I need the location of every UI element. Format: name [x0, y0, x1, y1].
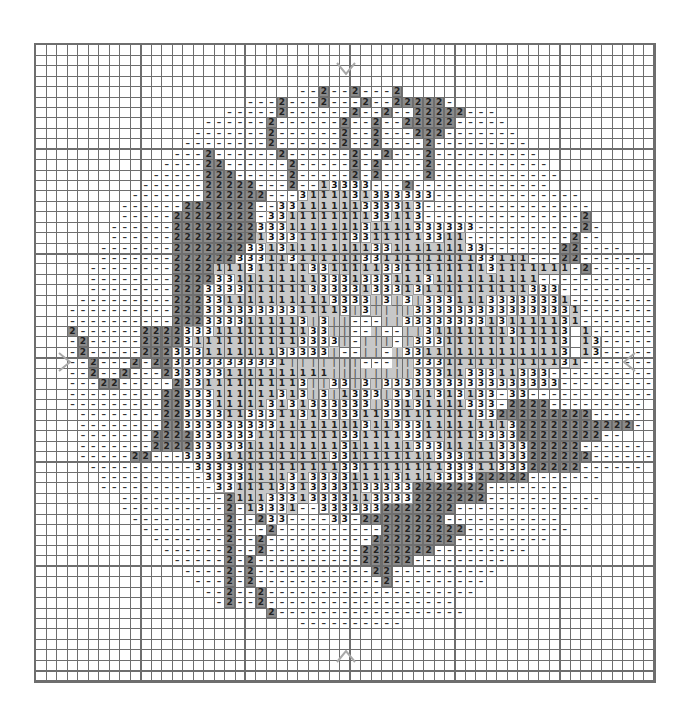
cell-symbol: 3	[371, 211, 381, 222]
cell-symbol: 1	[289, 463, 295, 472]
cell-symbol: –	[248, 160, 253, 169]
cell-symbol: –	[342, 98, 347, 107]
cell-symbol: –	[583, 400, 588, 409]
cell-symbol: –	[562, 504, 567, 513]
cell-symbol: –	[562, 525, 567, 534]
cell-symbol: 1	[394, 431, 400, 440]
cell-symbol: –	[290, 577, 295, 586]
cell-empty	[570, 108, 581, 119]
cell-empty	[591, 504, 602, 515]
cell-empty	[518, 566, 529, 577]
cell-empty	[99, 212, 110, 223]
cell-dash: –	[476, 160, 487, 171]
cell-empty	[560, 76, 571, 87]
cell-empty	[36, 587, 47, 598]
cell-symbol: –	[102, 431, 107, 440]
cell-empty	[57, 76, 68, 87]
cell-empty	[476, 608, 487, 619]
cell-dash: –	[329, 160, 340, 171]
cell-empty	[36, 128, 47, 139]
cell-symbol: –	[342, 160, 347, 169]
cell-empty	[591, 87, 602, 98]
cell-empty	[455, 639, 466, 650]
cell-empty	[266, 629, 277, 640]
cell-symbol: –	[143, 525, 148, 534]
cell-empty	[193, 671, 204, 682]
cell-symbol: |	[416, 327, 419, 336]
cell-empty	[214, 629, 225, 640]
cell-empty	[57, 420, 68, 431]
cell-symbol: 1	[541, 327, 547, 336]
cell-empty	[581, 55, 592, 66]
cell-empty	[602, 598, 613, 609]
cell-symbol: –	[405, 139, 410, 148]
cell-symbol: 1	[425, 390, 431, 399]
cell-empty	[78, 118, 89, 129]
cell-symbol: 1	[478, 337, 484, 346]
cell-symbol: 2	[540, 410, 548, 419]
cell-symbol: 2	[288, 160, 296, 169]
cell-symbol: 1	[342, 244, 348, 253]
cell-empty	[78, 212, 89, 223]
cell-symbol: 2	[215, 254, 223, 263]
cell-empty	[403, 671, 414, 682]
cell-symbol: 1	[226, 452, 232, 461]
cell-empty	[539, 639, 550, 650]
cell-symbol: –	[583, 442, 588, 451]
cell-empty	[623, 181, 634, 192]
cell-symbol: 3	[319, 503, 329, 514]
cell-symbol: –	[531, 504, 536, 513]
cell-empty	[141, 566, 152, 577]
cell-dash: –	[361, 618, 372, 629]
cell-symbol: 3	[266, 399, 276, 410]
cell-symbol: 1	[520, 317, 526, 326]
cell-symbol: 2	[550, 442, 558, 451]
cell-symbol: |	[343, 327, 346, 336]
cell-symbol: |	[333, 327, 336, 336]
cell-dash: –	[413, 608, 424, 619]
cell-symbol: –	[521, 483, 526, 492]
cell-empty	[193, 45, 204, 56]
cell-symbol: 1	[258, 264, 264, 273]
cell-empty	[623, 566, 634, 577]
cell-symbol: 2	[215, 160, 223, 169]
cell-symbol: 2	[424, 504, 432, 513]
cell-empty	[36, 410, 47, 421]
cell-symbol: 3	[350, 409, 360, 420]
cell-empty	[36, 337, 47, 348]
cell-symbol: 1	[300, 202, 306, 211]
cell-symbol: –	[154, 212, 159, 221]
cell-symbol: 1	[446, 285, 452, 294]
cell-symbol: 1	[530, 317, 536, 326]
cell-symbol: –	[636, 421, 641, 430]
cell-empty	[623, 598, 634, 609]
cell-symbol: –	[175, 515, 180, 524]
cell-symbol: –	[112, 223, 117, 232]
cell-empty	[151, 545, 162, 556]
cell-symbol: –	[636, 348, 641, 357]
cell-symbol: 2	[571, 254, 579, 263]
cell-empty	[434, 55, 445, 66]
cell-empty	[67, 441, 78, 452]
cell-symbol: 3	[413, 441, 423, 452]
cell-empty	[528, 618, 539, 629]
cell-empty	[570, 128, 581, 139]
cell-empty	[78, 639, 89, 650]
cell-empty	[256, 66, 267, 77]
cell-symbol: –	[542, 212, 547, 221]
cell-symbol: –	[81, 442, 86, 451]
cell-symbol: 3	[203, 441, 213, 452]
cell-empty	[256, 45, 267, 56]
cell-symbol: 2	[173, 296, 181, 305]
cell-symbol: 3	[382, 284, 392, 295]
cell-symbol: 3	[193, 378, 203, 389]
cell-symbol: 1	[310, 244, 316, 253]
cell-three: 3	[266, 233, 277, 244]
cell-symbol: 2	[225, 556, 233, 565]
cell-empty	[225, 66, 236, 77]
cell-symbol: –	[604, 285, 609, 294]
cell-symbol: 3	[476, 409, 486, 420]
cell-dash: –	[581, 306, 592, 317]
cell-empty	[78, 525, 89, 536]
cell-empty	[193, 55, 204, 66]
